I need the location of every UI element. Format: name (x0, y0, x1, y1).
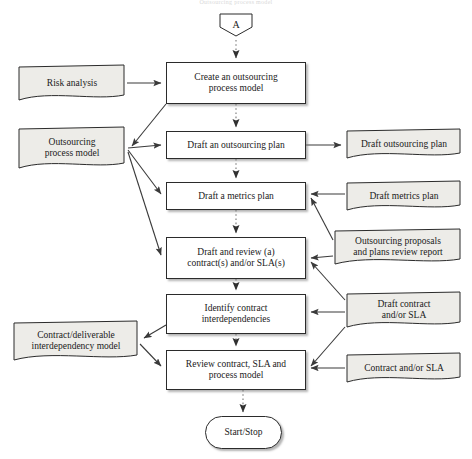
flowchart-canvas: Outsourcing process model ARisk analysis… (0, 0, 472, 459)
edge-draft-contract-sla-doc-to-draft-review-contract-task (311, 262, 345, 300)
node-label-create-process-model: Create an outsourcingprocess model (191, 72, 280, 93)
node-create-process-model[interactable]: Create an outsourcingprocess model (166, 62, 306, 104)
node-label-draft-metrics-plan-task: Draft a metrics plan (195, 191, 277, 202)
node-draft-review-contract-task[interactable]: Draft and review (a)contract(s) and/or S… (166, 237, 306, 279)
edge-outsourcing-process-model-to-draft-review-contract-task (128, 152, 161, 255)
node-label-contract-sla-doc: Contract and/or SLA (361, 363, 447, 374)
node-identify-interdependencies-task[interactable]: Identify contractinterdependencies (166, 294, 306, 334)
node-label-outsourcing-process-model: Outsourcingprocess model (42, 137, 103, 158)
node-label-draft-metrics-plan-doc: Draft metrics plan (366, 191, 441, 202)
edge-outsourcing-process-model-to-draft-metrics-plan-task (128, 150, 161, 194)
edge-review-report-doc-to-draft-review-contract-task (311, 256, 333, 258)
node-interdependency-model-doc[interactable]: Contract/deliverableinterdependency mode… (12, 320, 140, 362)
node-label-identify-interdependencies-task: Identify contractinterdependencies (199, 303, 274, 324)
edge-create-process-model-to-outsourcing-process-model (132, 104, 166, 146)
node-connector-a[interactable]: A (218, 12, 254, 38)
node-label-draft-outsourcing-plan-doc: Draft outsourcing plan (358, 139, 450, 150)
node-label-start-stop: Start/Stop (221, 427, 265, 438)
node-label-interdependency-model-doc: Contract/deliverableinterdependency mode… (29, 330, 124, 351)
node-review-contract-task[interactable]: Review contract, SLA andprocess model (166, 350, 306, 390)
node-draft-outsourcing-plan-doc[interactable]: Draft outsourcing plan (345, 128, 463, 160)
edge-draft-contract-sla-doc-to-review-contract-task (311, 327, 345, 366)
node-label-draft-outsourcing-plan-task: Draft an outsourcing plan (184, 140, 287, 151)
node-label-draft-contract-sla-doc: Draft contractand/or SLA (374, 299, 433, 320)
node-draft-contract-sla-doc[interactable]: Draft contractand/or SLA (345, 291, 463, 329)
edge-identify-interdependencies-task-to-interdependency-model-doc (144, 325, 166, 338)
node-risk-analysis[interactable]: Risk analysis (17, 64, 127, 102)
node-label-draft-review-contract-task: Draft and review (a)contract(s) and/or S… (184, 247, 288, 268)
node-review-report-doc[interactable]: Outsourcing proposalsand plans review re… (333, 228, 463, 266)
node-draft-metrics-plan-doc[interactable]: Draft metrics plan (345, 180, 463, 212)
node-label-review-report-doc: Outsourcing proposalsand plans review re… (350, 236, 445, 257)
node-start-stop[interactable]: Start/Stop (205, 416, 282, 449)
edge-interdependency-model-doc-to-review-contract-task (140, 344, 161, 366)
diagram-title: Outsourcing process model (0, 0, 472, 5)
node-label-review-contract-task: Review contract, SLA andprocess model (183, 359, 289, 380)
node-outsourcing-process-model[interactable]: Outsourcingprocess model (17, 126, 127, 170)
edge-review-report-doc-to-draft-metrics-plan-task (311, 198, 333, 240)
node-draft-metrics-plan-task[interactable]: Draft a metrics plan (166, 182, 306, 210)
node-label-connector-a: A (229, 19, 242, 30)
node-contract-sla-doc[interactable]: Contract and/or SLA (345, 352, 463, 384)
node-draft-outsourcing-plan-task[interactable]: Draft an outsourcing plan (166, 131, 306, 159)
node-label-risk-analysis: Risk analysis (44, 78, 100, 89)
